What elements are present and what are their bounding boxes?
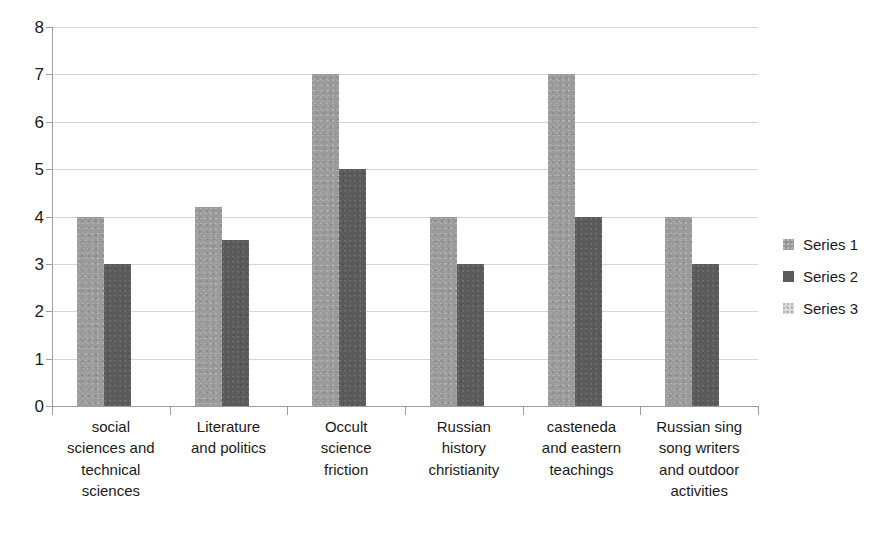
x-axis-category-label-line: song writers <box>640 437 758 458</box>
x-axis-tick <box>640 406 641 415</box>
gridline <box>52 311 758 312</box>
x-axis-tick <box>170 406 171 415</box>
bar <box>104 264 131 406</box>
y-axis-line <box>52 27 53 407</box>
gridline <box>52 359 758 360</box>
gridline <box>52 27 758 28</box>
bar <box>575 217 602 407</box>
bar <box>457 264 484 406</box>
x-axis-tick <box>523 406 524 415</box>
legend-item[interactable]: Series 2 <box>783 260 888 292</box>
bar-chart: 876543210 socialsciences andtechnicalsci… <box>0 0 893 539</box>
bar <box>77 217 104 407</box>
gridline <box>52 264 758 265</box>
x-axis-category-label-line: and outdoor <box>640 459 758 480</box>
bar <box>339 169 366 406</box>
y-axis-tick-label: 5 <box>0 161 44 178</box>
gridline <box>52 169 758 170</box>
y-axis-tick-label: 7 <box>0 66 44 83</box>
legend-swatch-icon <box>783 271 794 282</box>
x-axis-category-label-line: friction <box>287 459 405 480</box>
x-axis-category-label: Russianhistorychristianity <box>405 416 523 480</box>
x-axis-category-label: Russian singsong writersand outdooractiv… <box>640 416 758 501</box>
bar <box>665 217 692 407</box>
legend-label: Series 2 <box>803 269 858 284</box>
x-axis-category-label-line: history <box>405 437 523 458</box>
legend-swatch-icon <box>783 239 794 250</box>
legend-label: Series 3 <box>803 301 858 316</box>
bar <box>548 74 575 406</box>
x-axis-category-label-line: christianity <box>405 459 523 480</box>
y-axis-tick-label: 3 <box>0 255 44 272</box>
x-axis-category-label-line: casteneda <box>523 416 641 437</box>
y-axis-tick-label: 0 <box>0 398 44 415</box>
legend: Series 1Series 2Series 3 <box>783 228 888 324</box>
x-axis-tick <box>758 406 759 415</box>
legend-label: Series 1 <box>803 237 858 252</box>
x-axis-tick <box>287 406 288 415</box>
y-axis-tick-label: 1 <box>0 350 44 367</box>
x-axis-category-label-line: activities <box>640 480 758 501</box>
legend-item[interactable]: Series 3 <box>783 292 888 324</box>
y-axis-tick-label: 2 <box>0 303 44 320</box>
x-axis-category-label: Occultsciencefriction <box>287 416 405 480</box>
gridline <box>52 122 758 123</box>
bar <box>195 207 222 406</box>
x-axis-category-label-line: and eastern <box>523 437 641 458</box>
x-axis-category-label-line: teachings <box>523 459 641 480</box>
bar <box>312 74 339 406</box>
x-axis-category-label: Literatureand politics <box>170 416 288 459</box>
x-axis-category-label-line: Literature <box>170 416 288 437</box>
plot-area <box>52 27 758 406</box>
bar <box>430 217 457 407</box>
x-axis-category-label-line: sciences and <box>52 437 170 458</box>
x-axis-category-label-line: technical <box>52 459 170 480</box>
legend-swatch-icon <box>783 303 794 314</box>
gridline <box>52 74 758 75</box>
x-axis-category-label-line: science <box>287 437 405 458</box>
x-axis-category-label-line: Russian sing <box>640 416 758 437</box>
x-axis-category-label-line: sciences <box>52 480 170 501</box>
x-axis-category-label-line: and politics <box>170 437 288 458</box>
x-axis-tick <box>52 406 53 415</box>
y-axis-tick-label: 4 <box>0 208 44 225</box>
x-axis-category-label-line: social <box>52 416 170 437</box>
x-axis-tick <box>405 406 406 415</box>
bar <box>222 240 249 406</box>
x-axis-category-label: socialsciences andtechnicalsciences <box>52 416 170 501</box>
bar <box>692 264 719 406</box>
x-axis-category-label-line: Russian <box>405 416 523 437</box>
x-axis-category-label-line: Occult <box>287 416 405 437</box>
y-axis-tick-label: 6 <box>0 113 44 130</box>
x-axis-category-label: castenedaand easternteachings <box>523 416 641 480</box>
gridline <box>52 217 758 218</box>
y-axis-tick-label: 8 <box>0 19 44 36</box>
legend-item[interactable]: Series 1 <box>783 228 888 260</box>
